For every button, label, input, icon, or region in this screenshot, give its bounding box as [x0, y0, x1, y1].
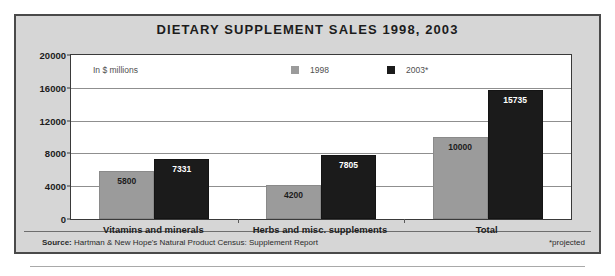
y-axis-tick-mark — [67, 120, 71, 121]
bar-value-label: 10000 — [434, 143, 487, 152]
legend-swatch-icon — [291, 66, 299, 74]
y-axis-tick-label: 4000 — [45, 181, 66, 192]
legend-units-label: In $ millions — [93, 65, 138, 75]
x-axis-category-label: Total — [476, 224, 498, 235]
plot-area: In $ millions 19982003* 0400080001200016… — [70, 54, 572, 220]
chart-title: DIETARY SUPPLEMENT SALES 1998, 2003 — [16, 22, 599, 37]
y-axis-tick-mark — [67, 87, 71, 88]
source-prefix: Source: — [42, 238, 72, 247]
chart-panel: DIETARY SUPPLEMENT SALES 1998, 2003 In $… — [14, 14, 601, 254]
bar: 10000 — [433, 137, 488, 219]
y-axis-tick-mark — [67, 153, 71, 154]
projected-footnote: *projected — [549, 238, 585, 247]
bar: 7805 — [321, 155, 376, 219]
bar: 4200 — [266, 185, 321, 219]
y-axis-tick-label: 8000 — [45, 148, 66, 159]
x-axis-tick-mark — [404, 219, 405, 223]
legend-label: 1998 — [310, 65, 329, 75]
x-axis-tick-mark — [238, 219, 239, 223]
y-axis-tick-label: 12000 — [40, 115, 66, 126]
bar-value-label: 7805 — [322, 161, 375, 170]
y-axis-tick-mark — [67, 186, 71, 187]
chart-legend: In $ millions 19982003* — [93, 65, 561, 77]
y-axis-tick-label: 20000 — [40, 50, 66, 61]
x-axis-category-label: Herbs and misc. supplements — [253, 224, 388, 235]
x-axis-category-label: Vitamins and minerals — [103, 224, 204, 235]
gridline — [71, 88, 571, 89]
y-axis-tick-mark — [67, 55, 71, 56]
chart-screenshot: DIETARY SUPPLEMENT SALES 1998, 2003 In $… — [0, 0, 615, 276]
legend-label: 2003* — [406, 65, 428, 75]
bar-value-label: 5800 — [100, 177, 153, 186]
source-text: Hartman & New Hope's Natural Product Cen… — [74, 238, 318, 247]
page-divider — [30, 266, 585, 267]
y-axis-tick-mark — [67, 219, 71, 220]
source-note: Source: Hartman & New Hope's Natural Pro… — [42, 238, 318, 247]
bar: 7331 — [154, 159, 209, 219]
legend-swatch-icon — [387, 66, 395, 74]
y-axis-tick-label: 16000 — [40, 82, 66, 93]
legend-entry: 2003* — [387, 65, 428, 75]
legend-entry: 1998 — [291, 65, 329, 75]
bar-value-label: 4200 — [267, 191, 320, 200]
bar: 5800 — [99, 171, 154, 219]
bar: 15735 — [488, 90, 543, 219]
bar-value-label: 15735 — [489, 96, 542, 105]
bar-value-label: 7331 — [155, 165, 208, 174]
y-axis-tick-label: 0 — [61, 214, 66, 225]
